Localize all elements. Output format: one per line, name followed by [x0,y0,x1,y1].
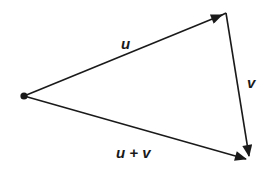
vector-u-tail [220,13,226,16]
vector-addition-diagram: u v u + v [0,0,276,177]
vector-v-line [226,13,249,156]
vector-u-line [24,15,222,96]
label-v: v [247,74,257,91]
origin-point [20,92,27,99]
label-u-plus-v: u + v [116,144,152,161]
label-u: u [121,35,130,52]
